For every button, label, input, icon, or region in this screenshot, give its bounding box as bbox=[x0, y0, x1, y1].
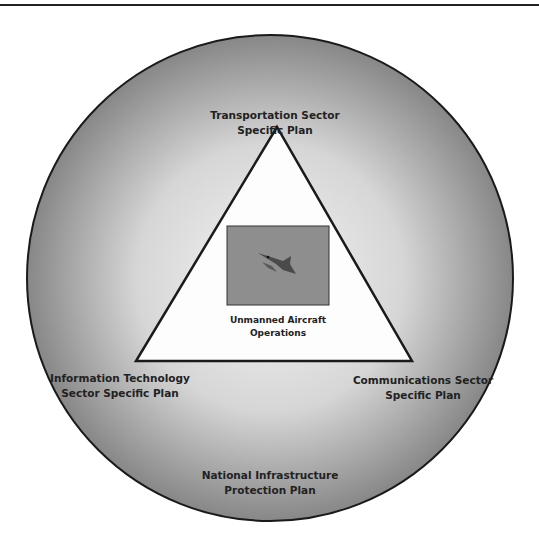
label-center: Unmanned Aircraft Operations bbox=[208, 314, 348, 340]
label-communications: Communications Sector Specific Plan bbox=[323, 373, 523, 403]
label-information-technology: Information Technology Sector Specific P… bbox=[20, 371, 220, 401]
label-transportation: Transportation Sector Specific Plan bbox=[180, 108, 370, 138]
label-national-infrastructure: National Infrastructure Protection Plan bbox=[170, 468, 370, 498]
